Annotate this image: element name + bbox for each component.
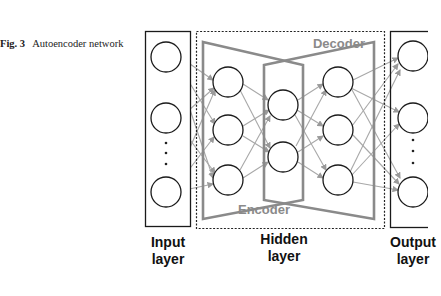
decoder-trapezoid — [264, 42, 374, 219]
edges-hidden-to-decoder — [295, 84, 326, 178]
encoder-label: Encoder — [238, 202, 290, 217]
output-ellipsis — [412, 139, 415, 165]
input-nodes — [151, 42, 181, 207]
decoder-label: Decoder — [313, 36, 365, 51]
output-layer-label: Output layer — [383, 234, 441, 268]
encoder-layer-nodes — [213, 67, 243, 195]
edges-encoder-to-hidden — [240, 84, 270, 178]
hidden-layer-label: Hidden layer — [256, 231, 312, 265]
output-nodes — [398, 41, 428, 207]
decoder-layer-nodes — [323, 67, 353, 195]
hidden-layer-nodes — [268, 90, 298, 172]
input-layer-label: Input layer — [143, 234, 193, 268]
